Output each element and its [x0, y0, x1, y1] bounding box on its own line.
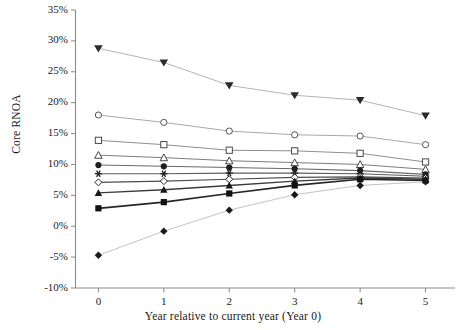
data-point-filled-triangle-down — [421, 113, 430, 120]
data-point-open-diamond — [226, 176, 233, 183]
x-tick-label: 0 — [78, 295, 118, 307]
y-tick-label: -5% — [14, 250, 68, 262]
x-axis-title: Year relative to current year (Year 0) — [0, 310, 466, 322]
series-1 — [94, 45, 430, 120]
y-tick-label: 0% — [14, 219, 68, 231]
chart-container: Core RNOA Year relative to current year … — [0, 0, 466, 330]
y-tick-label: 25% — [14, 64, 68, 76]
y-tick-label: -10% — [14, 281, 68, 293]
series-4 — [95, 151, 430, 172]
y-tick-label: 35% — [14, 3, 68, 15]
data-point-filled-circle — [226, 164, 232, 170]
series-line — [98, 140, 425, 162]
data-point-asterisk — [160, 171, 167, 177]
data-point-filled-circle — [292, 166, 298, 172]
data-point-open-square — [422, 159, 428, 165]
y-tick-label: 15% — [14, 126, 68, 138]
data-point-open-circle — [292, 132, 298, 138]
data-point-filled-circle — [95, 162, 101, 168]
data-point-filled-diamond — [95, 252, 102, 259]
data-point-filled-square — [161, 199, 167, 205]
data-point-open-square — [161, 142, 167, 148]
data-point-filled-square — [292, 182, 298, 188]
y-axis-ticks — [71, 10, 76, 288]
x-axis-ticks — [98, 288, 425, 293]
data-point-filled-triangle-down — [160, 59, 169, 66]
data-point-filled-square — [95, 205, 101, 211]
axes-group — [71, 10, 455, 293]
data-point-filled-square — [357, 176, 363, 182]
data-point-filled-circle — [161, 163, 167, 169]
series-5 — [95, 162, 428, 177]
series-2 — [95, 112, 428, 148]
data-series-layer — [94, 45, 430, 259]
x-tick-label: 1 — [144, 295, 184, 307]
data-point-filled-square — [226, 190, 232, 196]
data-point-filled-diamond — [226, 206, 233, 213]
data-point-open-square — [226, 147, 232, 153]
series-line — [98, 115, 425, 145]
series-3 — [95, 137, 428, 165]
data-point-open-circle — [357, 133, 363, 139]
x-tick-label: 2 — [209, 295, 249, 307]
data-point-open-circle — [422, 142, 428, 148]
data-point-open-circle — [95, 112, 101, 118]
data-point-open-square — [357, 150, 363, 156]
series-line — [98, 48, 425, 115]
y-tick-label: 5% — [14, 188, 68, 200]
data-point-asterisk — [95, 171, 102, 177]
line-chart-plot — [0, 0, 466, 330]
data-point-filled-diamond — [356, 182, 363, 189]
data-point-filled-diamond — [291, 191, 298, 198]
data-point-open-diamond — [95, 179, 102, 186]
data-point-open-circle — [161, 119, 167, 125]
data-point-open-circle — [226, 128, 232, 134]
y-tick-label: 10% — [14, 157, 68, 169]
data-point-open-diamond — [160, 178, 167, 185]
data-point-open-square — [95, 137, 101, 143]
data-point-open-square — [292, 148, 298, 154]
y-tick-label: 30% — [14, 33, 68, 45]
series-line — [98, 182, 425, 256]
data-point-filled-diamond — [160, 227, 167, 234]
series-line — [98, 155, 425, 169]
x-tick-label: 5 — [406, 295, 446, 307]
series-line — [98, 173, 425, 176]
y-tick-label: 20% — [14, 95, 68, 107]
x-tick-label: 4 — [340, 295, 380, 307]
x-tick-label: 3 — [275, 295, 315, 307]
